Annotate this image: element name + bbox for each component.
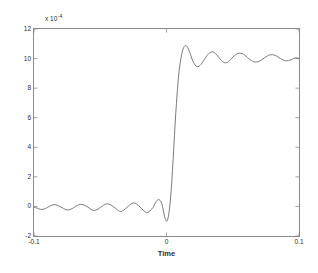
y-tick-label: 10 [24,55,31,62]
x-tick-label: -0.1 [28,239,39,246]
y-tick-label: 2 [27,174,31,181]
y-tick-label: 12 [24,26,31,33]
chart-figure: x 10-4 -2024681012 -0.100.1 Time [0,0,318,273]
y-tick-label: 0 [27,203,31,210]
x-tick-label: 0 [165,239,169,246]
y-tick-label: 4 [27,144,31,151]
y-tick-label: 8 [27,85,31,92]
x-axis-title: Time [33,250,300,258]
y-axis-exponent-power: -4 [58,13,62,19]
plot-area: -2024681012 -0.100.1 [33,28,300,237]
y-axis-exponent-prefix: x 10 [45,15,57,22]
x-tick-label: 0.1 [294,239,303,246]
data-curve-layer [34,29,299,236]
y-tick-label: 6 [27,114,31,121]
series-line [34,45,299,221]
y-axis-exponent-label: x 10-4 [45,14,62,23]
